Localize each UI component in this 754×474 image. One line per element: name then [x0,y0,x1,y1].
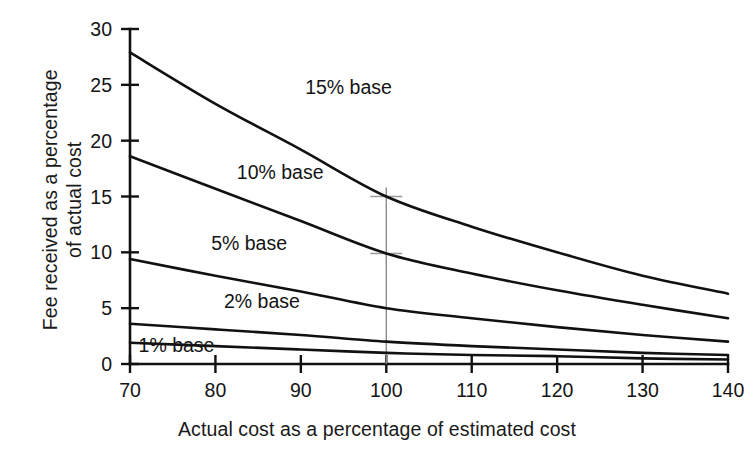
x-tick-label: 90 [290,379,312,401]
series-line [130,52,728,293]
y-tick-label: 15 [90,186,112,208]
y-tick-label: 10 [90,241,112,263]
x-tick-label: 120 [541,379,574,401]
series-annotation: 5% base [211,232,287,254]
plot-area: 051015202530 708090100110120130140 15% b… [0,0,754,474]
y-axis-ticks: 051015202530 [90,18,139,375]
series-annotation: 2% base [224,290,300,312]
x-tick-label: 70 [119,379,141,401]
series-annotation: 10% base [237,161,324,183]
y-tick-label: 5 [101,297,112,319]
series-annotation: 1% base [139,334,215,356]
x-tick-label: 130 [626,379,659,401]
x-tick-label: 110 [456,379,487,401]
series-annotation: 15% base [305,76,392,98]
x-tick-label: 80 [205,379,227,401]
y-tick-label: 30 [90,18,112,40]
y-tick-label: 0 [101,353,112,375]
y-tick-label: 20 [90,130,112,152]
series-curves [130,52,728,359]
series-line [130,324,728,355]
x-tick-label: 140 [712,379,745,401]
x-axis-ticks: 708090100110120130140 [119,355,744,401]
y-tick-label: 25 [90,74,112,96]
chart-figure: Fee received as a percentage of actual c… [0,0,754,474]
x-axis-title: Actual cost as a percentage of estimated… [0,418,754,441]
series-annotations: 15% base10% base5% base2% base1% base [139,76,392,356]
reference-marker [370,188,402,365]
x-tick-label: 100 [370,379,403,401]
